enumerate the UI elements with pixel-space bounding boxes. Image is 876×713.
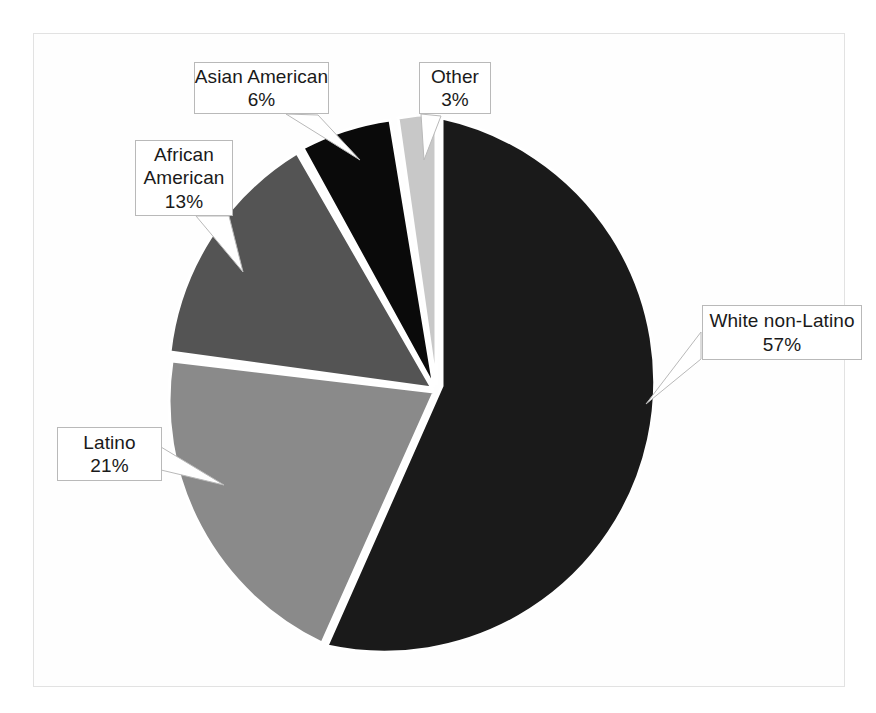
pie-label-african-american-value: 13%	[165, 190, 203, 213]
pie-label-other: Other 3%	[419, 62, 491, 114]
pie-label-african-american-name-line1: African	[154, 143, 214, 166]
pie-label-asian-american-name: Asian American	[195, 65, 328, 88]
pie-label-latino-value: 21%	[90, 454, 128, 477]
pie-label-white-non-latino-name: White non-Latino	[709, 309, 854, 332]
pie-label-african-american: African American 13%	[135, 140, 233, 216]
pie-label-asian-american: Asian American 6%	[194, 62, 329, 114]
pie-label-latino: Latino 21%	[57, 427, 162, 481]
pie-label-other-name: Other	[431, 65, 479, 88]
pie-label-white-non-latino: White non-Latino 57%	[702, 305, 862, 360]
pie-label-other-value: 3%	[441, 88, 469, 111]
pie-label-asian-american-value: 6%	[248, 88, 276, 111]
pie-label-latino-name: Latino	[83, 431, 135, 454]
pie-label-white-non-latino-value: 57%	[763, 333, 801, 356]
pie-label-african-american-name-line2: American	[143, 166, 224, 189]
